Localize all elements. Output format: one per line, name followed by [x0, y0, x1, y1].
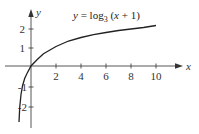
x-tick-label: 2 — [53, 70, 59, 82]
equation-label: y = log3 (x + 1) — [72, 9, 140, 24]
y-tick-label: 2 — [20, 23, 26, 35]
x-axis-label: x — [185, 60, 191, 72]
y-axis-label: y — [35, 6, 41, 18]
x-tick-label: 6 — [103, 70, 109, 82]
x-tick-label: 10 — [151, 70, 163, 82]
x-tick-label: 8 — [128, 70, 134, 82]
y-axis-arrow-icon — [28, 9, 33, 17]
log-graph: x y 2 4 6 8 10 2 1 -1 -2 y = log3 (x + 1… — [0, 0, 199, 134]
y-tick-label: 1 — [20, 42, 26, 54]
x-axis-arrow-icon — [175, 63, 183, 68]
x-tick-label: 4 — [78, 70, 84, 82]
log-curve — [19, 26, 156, 123]
